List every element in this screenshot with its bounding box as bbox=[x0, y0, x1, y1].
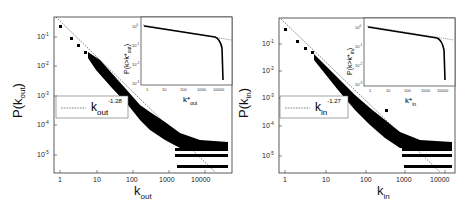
x-tick: 10 bbox=[93, 176, 101, 183]
y-tick: 10-3 bbox=[262, 93, 274, 101]
inset-x-label: k*out bbox=[183, 95, 198, 106]
legend: kin-1.27 bbox=[280, 96, 348, 118]
inset-y-tick: 10-1 bbox=[132, 42, 139, 48]
inset-y-tick: 10-1 bbox=[355, 43, 362, 49]
y-tick: 10-3 bbox=[37, 91, 49, 99]
inset-x-label: k*in bbox=[405, 96, 416, 107]
inset-x-tick: 10000 bbox=[213, 87, 225, 92]
x-tick: 1 bbox=[58, 176, 62, 183]
panel-left: 10-1 10-2 10-3 10-4 10-5 P(kout) 1 10 10… bbox=[10, 17, 232, 201]
y-tick: 10-1 bbox=[37, 32, 49, 40]
y-axis-label: P(kin) bbox=[236, 88, 253, 118]
inset-y-tick: 10-3 bbox=[355, 81, 362, 87]
figure: 10-1 10-2 10-3 10-4 10-5 P(kout) 1 10 10… bbox=[0, 0, 473, 204]
inset: 100 10-1 10-2 10-3 1 10 100 1000 10000 P… bbox=[346, 18, 455, 107]
y-tick: 10-2 bbox=[37, 61, 49, 69]
x-tick: 100 bbox=[126, 176, 138, 183]
inset-x-tick: 1 bbox=[369, 88, 372, 93]
x-axis: 1 10 100 1000 10000 bbox=[283, 170, 450, 183]
inset-x-tick: 10 bbox=[386, 88, 391, 93]
inset-y-tick: 10-2 bbox=[355, 62, 362, 68]
inset-y-label: P(k>k*in) bbox=[346, 48, 355, 75]
inset-x-tick: 1 bbox=[146, 87, 149, 92]
inset-x-tick: 100 bbox=[180, 87, 187, 92]
x-axis-label: kout bbox=[134, 183, 152, 201]
inset-y-label: P(k>k*out) bbox=[123, 44, 132, 74]
inset: 100 10-1 10-2 10-3 1 10 100 1000 10000 P… bbox=[123, 17, 232, 106]
inset-x-tick: 10 bbox=[162, 87, 167, 92]
x-tick: 1000 bbox=[396, 176, 412, 183]
inset-y-tick: 100 bbox=[355, 24, 361, 30]
x-tick: 10 bbox=[322, 176, 330, 183]
y-tick: 10-2 bbox=[262, 66, 274, 74]
x-tick: 10000 bbox=[191, 176, 211, 183]
x-tick: 100 bbox=[360, 176, 372, 183]
y-axis-label: P(kout) bbox=[10, 83, 27, 118]
x-axis-label: kin bbox=[377, 183, 390, 201]
inset-y-tick: 10-3 bbox=[132, 80, 139, 86]
inset-x-tick: 1000 bbox=[421, 88, 431, 93]
y-tick: 10-1 bbox=[262, 39, 274, 47]
inset-x-tick: 100 bbox=[404, 88, 411, 93]
legend: kout-1.28 bbox=[56, 96, 128, 118]
y-tick: 10-4 bbox=[262, 121, 274, 129]
inset-y-tick: 10-2 bbox=[132, 61, 139, 67]
panel-right: 10-1 10-2 10-3 10-4 10-5 P(kin) 1 10 100… bbox=[236, 18, 455, 201]
x-axis: 1 10 100 1000 10000 bbox=[58, 170, 211, 183]
inset-x-tick: 1000 bbox=[197, 87, 207, 92]
x-tick: 10000 bbox=[430, 176, 450, 183]
inset-y-tick: 100 bbox=[132, 23, 138, 29]
x-tick: 1000 bbox=[159, 176, 175, 183]
y-tick: 10-5 bbox=[37, 150, 49, 158]
inset-x-tick: 10000 bbox=[437, 88, 449, 93]
y-tick: 10-5 bbox=[262, 151, 274, 159]
x-tick: 1 bbox=[283, 176, 287, 183]
y-tick: 10-4 bbox=[37, 120, 49, 128]
